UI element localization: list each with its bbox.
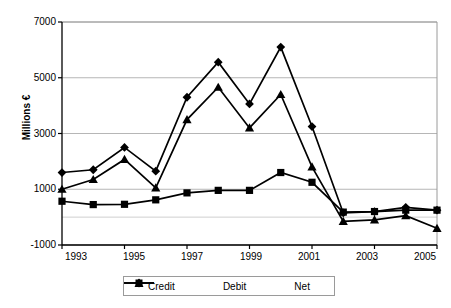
series-marker-debit xyxy=(90,201,97,208)
series-marker-debit xyxy=(246,187,253,194)
series-marker-net xyxy=(89,175,98,183)
legend-item-net: Net xyxy=(294,281,310,292)
series-marker-net xyxy=(214,83,223,91)
series-marker-credit xyxy=(58,168,67,177)
series-marker-debit xyxy=(215,187,222,194)
series-marker-net xyxy=(120,155,129,163)
series-marker-net xyxy=(276,90,285,98)
legend-item-debit: Debit xyxy=(223,281,246,292)
series-marker-debit xyxy=(58,198,65,205)
legend: Credit Debit Net xyxy=(123,276,335,296)
legend-label-net: Net xyxy=(294,281,310,292)
series-marker-debit xyxy=(152,196,159,203)
series-marker-debit xyxy=(308,179,315,186)
series-marker-debit xyxy=(183,189,190,196)
series-marker-debit xyxy=(121,201,128,208)
series-marker-debit xyxy=(433,207,440,214)
series-marker-debit xyxy=(371,208,378,215)
series-marker-debit xyxy=(277,169,284,176)
series-line-net xyxy=(62,87,437,228)
series-marker-credit xyxy=(276,43,285,52)
chart-container: Millions € 7000 5000 3000 1000 -1000 199… xyxy=(0,0,451,308)
series-marker-debit xyxy=(340,209,347,216)
series-marker-credit xyxy=(308,122,317,131)
triangle-marker-icon xyxy=(124,277,154,289)
legend-label-debit: Debit xyxy=(223,281,246,292)
plot-area xyxy=(0,0,451,308)
series-marker-net xyxy=(307,162,316,170)
